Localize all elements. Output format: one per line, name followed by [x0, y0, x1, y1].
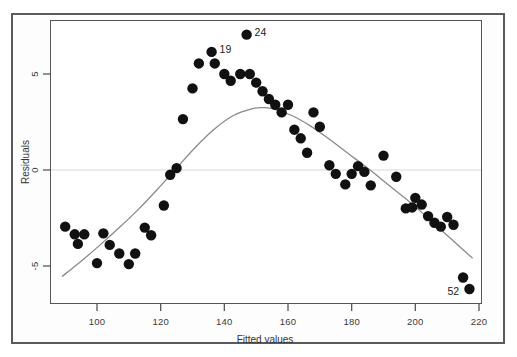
x-tick-label: 200	[407, 316, 423, 327]
x-tick-label: 100	[89, 316, 105, 327]
x-tick-label: 220	[471, 316, 487, 327]
outlier-label-24: 24	[255, 26, 267, 38]
outlier-label-19: 19	[220, 43, 232, 55]
x-tick-label: 140	[216, 316, 232, 327]
y-tick-label: 5	[29, 71, 40, 76]
y-tick-label: -5	[29, 262, 40, 271]
x-tick-label: 160	[280, 316, 296, 327]
residual-plot-figure: 10012014016018020022050-5 Fitted values …	[0, 0, 517, 357]
x-axis-title: Fitted values	[237, 334, 294, 345]
x-tick-label: 180	[343, 316, 359, 327]
plot-panel	[50, 20, 482, 304]
outlier-label-52: 52	[447, 285, 459, 297]
x-tick-label: 120	[152, 316, 168, 327]
y-axis-title: Residuals	[20, 140, 31, 184]
